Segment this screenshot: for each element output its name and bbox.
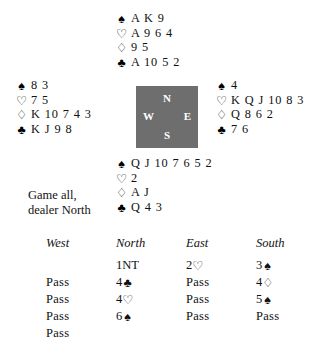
hand-south-spades: ♠Q J 10 7 6 5 2 <box>116 156 213 171</box>
heart-icon: ♡ <box>16 95 27 108</box>
auction-header-east: East <box>186 236 256 258</box>
auction-row: Pass4♡Pass5♠ <box>46 292 326 309</box>
spade-icon: ♠ <box>122 311 133 324</box>
auction-row: Pass6♠PassPass <box>46 309 326 326</box>
diamond-icon: ♢ <box>116 42 127 55</box>
spade-icon: ♠ <box>262 294 273 307</box>
auction-call-north <box>116 326 186 343</box>
club-icon: ♣ <box>116 57 127 70</box>
hand-east-clubs-cards: 7 6 <box>231 122 249 137</box>
hand-south: ♠Q J 10 7 6 5 2 ♡2 ♢A J ♣Q 4 3 <box>116 156 213 214</box>
auction-body: 1NT2♡3♠Pass4♣Pass4♢Pass4♡Pass5♠Pass6♠Pas… <box>46 258 326 343</box>
compass-east-label: E <box>184 111 191 122</box>
auction-call-west: Pass <box>46 292 116 309</box>
spade-icon: ♠ <box>216 80 227 93</box>
hand-east-clubs: ♣7 6 <box>216 122 304 137</box>
hand-east-hearts-cards: K Q J 10 8 3 <box>231 93 304 108</box>
auction-call-south: 5♠ <box>256 292 326 309</box>
auction-header-row: West North East South <box>46 236 326 258</box>
auction-call-east: Pass <box>186 292 256 309</box>
spade-icon: ♠ <box>116 13 127 26</box>
auction-call-east: Pass <box>186 275 256 292</box>
hand-east-diamonds-cards: Q 8 6 2 <box>231 107 274 122</box>
compass-north-label: N <box>136 93 198 104</box>
auction-header-north: North <box>116 236 186 258</box>
dealer-text: dealer North <box>28 203 91 218</box>
bid-level: 1NT <box>116 258 139 272</box>
club-icon: ♣ <box>116 202 127 215</box>
hand-north-clubs-cards: A 10 5 2 <box>131 55 180 70</box>
auction-row: Pass <box>46 326 326 343</box>
hand-south-clubs: ♣Q 4 3 <box>116 200 213 215</box>
hand-north-hearts: ♡A 9 6 4 <box>116 26 180 41</box>
hand-west-hearts: ♡7 5 <box>16 93 92 108</box>
hand-south-diamonds: ♢A J <box>116 185 213 200</box>
hand-north-clubs: ♣A 10 5 2 <box>116 55 180 70</box>
vulnerability-text: Game all, <box>28 188 91 203</box>
auction-header-south: South <box>256 236 326 258</box>
auction-call-north: 6♠ <box>116 309 186 326</box>
auction-call-west: Pass <box>46 326 116 343</box>
board-conditions: Game all, dealer North <box>28 188 91 218</box>
auction-call-west: Pass <box>46 309 116 326</box>
heart-icon: ♡ <box>116 28 127 41</box>
compass-south-label: S <box>136 130 198 141</box>
club-icon: ♣ <box>16 124 27 137</box>
auction-call-east: 2♡ <box>186 258 256 275</box>
hand-west-clubs: ♣K J 9 8 <box>16 122 92 137</box>
auction-call-south: 4♢ <box>256 275 326 292</box>
diamond-icon: ♢ <box>262 277 273 290</box>
hand-north-hearts-cards: A 9 6 4 <box>131 26 173 41</box>
diamond-icon: ♢ <box>116 187 127 200</box>
diamond-icon: ♢ <box>16 109 27 122</box>
hand-south-hearts: ♡2 <box>116 171 213 186</box>
hand-east-spades: ♠4 <box>216 78 304 93</box>
spade-icon: ♠ <box>116 158 127 171</box>
hand-north-diamonds-cards: 9 5 <box>131 40 149 55</box>
auction-call-south: 3♠ <box>256 258 326 275</box>
auction-header-west: West <box>46 236 116 258</box>
auction-call-east: Pass <box>186 309 256 326</box>
hand-south-hearts-cards: 2 <box>131 171 138 186</box>
hand-south-clubs-cards: Q 4 3 <box>131 200 163 215</box>
compass-west-label: W <box>143 111 154 122</box>
auction-row: Pass4♣Pass4♢ <box>46 275 326 292</box>
hand-east-spades-cards: 4 <box>231 78 238 93</box>
hand-south-diamonds-cards: A J <box>131 185 150 200</box>
hand-west-clubs-cards: K J 9 8 <box>31 122 73 137</box>
hand-north: ♠A K 9 ♡A 9 6 4 ♢9 5 ♣A 10 5 2 <box>116 11 180 69</box>
club-icon: ♣ <box>122 277 133 290</box>
heart-icon: ♡ <box>216 95 227 108</box>
hand-north-diamonds: ♢9 5 <box>116 40 180 55</box>
hand-west: ♠8 3 ♡7 5 ♢K 10 7 4 3 ♣K J 9 8 <box>16 78 92 136</box>
heart-icon: ♡ <box>122 294 133 307</box>
diamond-icon: ♢ <box>216 109 227 122</box>
auction-call-north: 4♣ <box>116 275 186 292</box>
auction-table: West North East South 1NT2♡3♠Pass4♣Pass4… <box>46 236 326 343</box>
hand-west-diamonds: ♢K 10 7 4 3 <box>16 107 92 122</box>
hand-west-hearts-cards: 7 5 <box>31 93 49 108</box>
heart-icon: ♡ <box>116 173 127 186</box>
auction-call-west <box>46 258 116 275</box>
auction-call-south <box>256 326 326 343</box>
hand-south-spades-cards: Q J 10 7 6 5 2 <box>131 156 213 171</box>
hand-north-spades-cards: A K 9 <box>131 11 165 26</box>
hand-west-spades-cards: 8 3 <box>31 78 49 93</box>
compass-rose: N W E S <box>136 86 198 148</box>
heart-icon: ♡ <box>192 260 203 273</box>
auction-call-south: Pass <box>256 309 326 326</box>
auction-call-north: 4♡ <box>116 292 186 309</box>
auction-call-north: 1NT <box>116 258 186 275</box>
hand-east: ♠4 ♡K Q J 10 8 3 ♢Q 8 6 2 ♣7 6 <box>216 78 304 136</box>
spade-icon: ♠ <box>262 260 273 273</box>
hand-west-spades: ♠8 3 <box>16 78 92 93</box>
hand-east-diamonds: ♢Q 8 6 2 <box>216 107 304 122</box>
hand-west-diamonds-cards: K 10 7 4 3 <box>31 107 92 122</box>
auction-row: 1NT2♡3♠ <box>46 258 326 275</box>
hand-east-hearts: ♡K Q J 10 8 3 <box>216 93 304 108</box>
club-icon: ♣ <box>216 124 227 137</box>
auction-call-west: Pass <box>46 275 116 292</box>
auction-call-east <box>186 326 256 343</box>
spade-icon: ♠ <box>16 80 27 93</box>
hand-north-spades: ♠A K 9 <box>116 11 180 26</box>
